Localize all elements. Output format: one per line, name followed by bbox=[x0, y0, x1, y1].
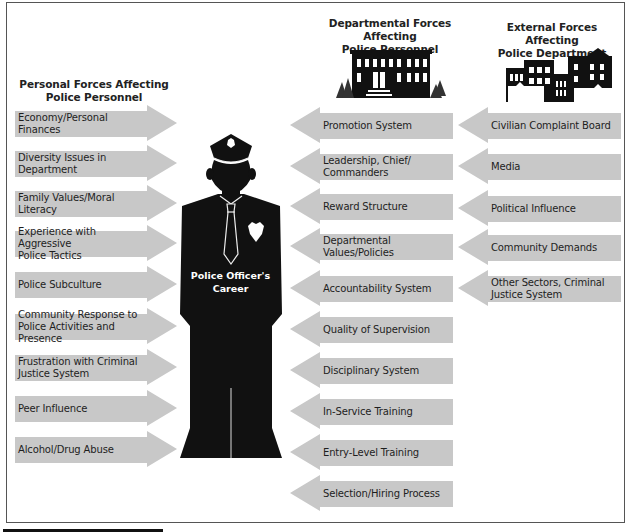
force-label-line: Reward Structure bbox=[323, 201, 408, 213]
heading-line: External Forces Affecting bbox=[482, 21, 622, 47]
force-label-line: Economy/Personal Finances bbox=[18, 112, 146, 136]
force-arrow: Reward Structure bbox=[290, 188, 453, 224]
force-arrow: Community Response toPolice Activities a… bbox=[15, 308, 177, 344]
force-label: Civilian Complaint Board bbox=[491, 113, 620, 139]
force-label: In-Service Training bbox=[323, 399, 452, 425]
force-label-line: Commanders bbox=[323, 167, 411, 179]
force-label-line: Accountability System bbox=[323, 283, 431, 295]
force-arrow: Disciplinary System bbox=[290, 352, 453, 388]
force-label: Alcohol/Drug Abuse bbox=[18, 437, 146, 463]
center-label-line: Police Officer's bbox=[178, 269, 283, 282]
force-label: Promotion System bbox=[323, 113, 452, 139]
force-label: Family Values/Moral Literacy bbox=[18, 191, 146, 217]
force-arrow: Peer Influence bbox=[15, 390, 177, 426]
force-label-line: Selection/Hiring Process bbox=[323, 488, 440, 500]
force-label: Community Response toPolice Activities a… bbox=[18, 314, 146, 340]
force-label: Entry-Level Training bbox=[323, 440, 452, 466]
force-label: Reward Structure bbox=[323, 194, 452, 220]
force-arrow: Other Sectors, CriminalJustice System bbox=[458, 270, 621, 306]
force-label: Media bbox=[491, 154, 620, 180]
force-label-line: Justice System bbox=[18, 368, 137, 380]
force-label-line: Quality of Supervision bbox=[323, 324, 430, 336]
force-label-line: Entry-Level Training bbox=[323, 447, 419, 459]
force-arrow: Entry-Level Training bbox=[290, 434, 453, 470]
center-label-line: Career bbox=[178, 282, 283, 295]
heading-line: Departmental Forces Affecting bbox=[310, 17, 470, 43]
force-label-line: Departmental Values/Policies bbox=[323, 235, 452, 259]
city-buildings-icon bbox=[498, 46, 618, 102]
center-label: Police Officer's Career bbox=[178, 269, 283, 295]
force-label: Quality of Supervision bbox=[323, 317, 452, 343]
force-label-line: Frustration with Criminal bbox=[18, 356, 137, 368]
force-arrow: Alcohol/Drug Abuse bbox=[15, 431, 177, 467]
force-arrow: Frustration with CriminalJustice System bbox=[15, 349, 177, 385]
force-arrow: Family Values/Moral Literacy bbox=[15, 185, 177, 221]
force-label: Other Sectors, CriminalJustice System bbox=[491, 276, 620, 302]
force-arrow: Police Subculture bbox=[15, 266, 177, 302]
force-label: Disciplinary System bbox=[323, 358, 452, 384]
force-label-line: In-Service Training bbox=[323, 406, 413, 418]
force-label-line: Media bbox=[491, 161, 520, 173]
force-arrow: Accountability System bbox=[290, 270, 453, 306]
force-label-line: Peer Influence bbox=[18, 403, 87, 415]
force-label: Political Influence bbox=[491, 196, 620, 222]
force-label-line: Police Subculture bbox=[18, 279, 102, 291]
police-station-building-icon bbox=[334, 46, 446, 102]
force-label: Peer Influence bbox=[18, 396, 146, 422]
force-label-line: Civilian Complaint Board bbox=[491, 120, 611, 132]
force-label-line: Disciplinary System bbox=[323, 365, 419, 377]
force-label: Police Subculture bbox=[18, 272, 146, 298]
force-label: Leadership, Chief/Commanders bbox=[323, 154, 452, 180]
force-label: Departmental Values/Policies bbox=[323, 234, 452, 260]
force-label: Experience with AggressivePolice Tactics bbox=[18, 231, 146, 257]
force-label-line: Family Values/Moral Literacy bbox=[18, 192, 146, 216]
force-arrow: Selection/Hiring Process bbox=[290, 475, 453, 511]
force-label: Community Demands bbox=[491, 235, 620, 261]
force-arrow: In-Service Training bbox=[290, 393, 453, 429]
force-arrow: Leadership, Chief/Commanders bbox=[290, 148, 453, 184]
force-label-line: Political Influence bbox=[491, 203, 576, 215]
force-arrow: Political Influence bbox=[458, 190, 621, 226]
heading-personal-forces: Personal Forces Affecting Police Personn… bbox=[14, 78, 174, 104]
force-arrow: Departmental Values/Policies bbox=[290, 228, 453, 264]
force-label-line: Police Tactics bbox=[18, 250, 146, 262]
force-label-line: Alcohol/Drug Abuse bbox=[18, 444, 114, 456]
force-label: Frustration with CriminalJustice System bbox=[18, 355, 146, 381]
force-label-line: Experience with Aggressive bbox=[18, 226, 146, 250]
force-arrow: Promotion System bbox=[290, 107, 453, 143]
force-arrow: Quality of Supervision bbox=[290, 311, 453, 347]
force-label: Accountability System bbox=[323, 276, 452, 302]
force-arrow: Community Demands bbox=[458, 229, 621, 265]
force-label-line: Community Response to bbox=[18, 309, 146, 321]
heading-line: Personal Forces Affecting bbox=[14, 78, 174, 91]
force-label: Selection/Hiring Process bbox=[323, 481, 452, 507]
force-label: Economy/Personal Finances bbox=[18, 111, 146, 137]
force-label-line: Other Sectors, Criminal bbox=[491, 277, 604, 289]
force-label: Diversity Issues in Department bbox=[18, 151, 146, 177]
heading-line: Police Personnel bbox=[14, 91, 174, 104]
force-label-line: Community Demands bbox=[491, 242, 597, 254]
force-arrow: Media bbox=[458, 148, 621, 184]
force-arrow: Experience with AggressivePolice Tactics bbox=[15, 225, 177, 261]
force-label-line: Promotion System bbox=[323, 120, 412, 132]
force-arrow: Economy/Personal Finances bbox=[15, 105, 177, 141]
force-arrow: Civilian Complaint Board bbox=[458, 107, 621, 143]
force-label-line: Leadership, Chief/ bbox=[323, 155, 411, 167]
force-label-line: Diversity Issues in Department bbox=[18, 152, 146, 176]
force-arrow: Diversity Issues in Department bbox=[15, 145, 177, 181]
force-label-line: Police Activities and Presence bbox=[18, 321, 146, 345]
force-label-line: Justice System bbox=[491, 289, 604, 301]
